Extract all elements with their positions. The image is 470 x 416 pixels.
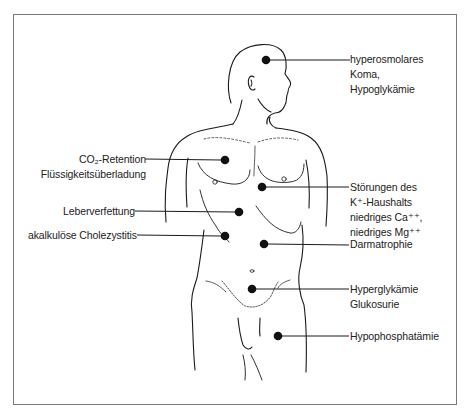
label-line: Hyperglykämie	[350, 282, 418, 297]
label-gallbladder: akalkulöse Cholezystitis	[28, 228, 137, 243]
marker-lung	[221, 156, 230, 165]
label-heart: Störungen des K⁺-Haushalts niedriges Ca⁺…	[350, 180, 422, 240]
label-muscle: Hypophosphatämie	[350, 329, 439, 344]
label-lung: CO₂-Retention Flüssigkeitsüberladung	[41, 152, 146, 182]
label-line: Hypophosphatämie	[350, 329, 439, 344]
label-line: Koma,	[350, 67, 423, 82]
marker-liver	[235, 208, 244, 217]
label-line: CO₂-Retention	[41, 152, 146, 167]
label-pancreas: Hyperglykämie Glukosurie	[350, 282, 418, 312]
marker-gallbladder	[221, 232, 230, 241]
marker-bowel	[260, 240, 269, 249]
label-line: niedriges Ca⁺⁺,	[350, 210, 422, 225]
label-head: hyperosmolares Koma, Hypoglykämie	[350, 52, 423, 97]
label-liver: Leberverfettung	[63, 204, 135, 219]
label-line: Flüssigkeitsüberladung	[41, 167, 146, 182]
label-line: Leberverfettung	[63, 204, 135, 219]
label-line: hyperosmolares	[350, 52, 423, 67]
marker-head	[262, 56, 271, 65]
label-bowel: Darmatrophie	[350, 237, 412, 252]
label-line: Glukosurie	[350, 297, 418, 312]
marker-muscle	[274, 332, 283, 341]
figure-caption-cutoff	[14, 410, 454, 416]
label-line: Hypoglykämie	[350, 82, 423, 97]
label-line: Störungen des	[350, 180, 422, 195]
marker-heart	[258, 183, 267, 192]
marker-pancreas	[248, 285, 257, 294]
label-line: Darmatrophie	[350, 237, 412, 252]
label-line: akalkulöse Cholezystitis	[28, 228, 137, 243]
label-line: K⁺-Haushalts	[350, 195, 422, 210]
